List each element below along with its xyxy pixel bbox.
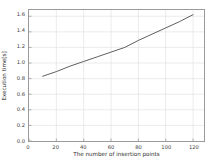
x-tick-label: 80: [135, 145, 142, 150]
x-tick-label: 40: [80, 145, 87, 150]
x-axis-title: The number of insertion points: [28, 152, 205, 158]
y-tick-label: 0.2: [17, 124, 25, 129]
tick-marks: [29, 10, 204, 141]
chart-figure: 0.00.20.40.60.81.01.21.41.6 020406080100…: [0, 0, 214, 164]
plot-area: [28, 9, 205, 142]
y-tick-label: 0.0: [17, 139, 25, 144]
y-tick-label: 0.8: [17, 76, 25, 81]
x-tick-label: 0: [26, 145, 29, 150]
y-axis-title: Execution time[s]: [2, 51, 8, 100]
y-tick-label: 1.2: [17, 44, 25, 49]
y-tick-label: 0.6: [17, 92, 25, 97]
y-axis-title-wrapper: Execution time[s]: [0, 9, 10, 142]
y-tick-label: 1.0: [17, 60, 25, 65]
y-tick-label: 1.6: [17, 13, 25, 18]
y-tick-label: 1.4: [17, 29, 25, 34]
x-tick-label: 100: [161, 145, 171, 150]
x-tick-label: 20: [52, 145, 59, 150]
x-tick-label: 120: [189, 145, 199, 150]
x-tick-label: 60: [108, 145, 115, 150]
y-tick-label: 0.4: [17, 108, 25, 113]
